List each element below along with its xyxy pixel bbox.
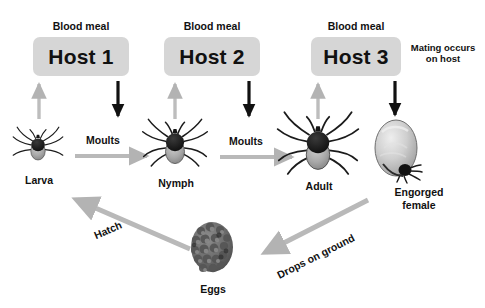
host-box-1-label: Host 1 — [48, 46, 113, 67]
stage-label-nymph: Nymph — [145, 177, 207, 190]
engorged-label-line-1: Engorged — [382, 186, 456, 199]
tick-life-cycle-diagram: Blood meal Host 1 Blood meal Host 2 Bloo… — [0, 0, 485, 308]
stage-label-engorged-female: Engorged female — [382, 186, 456, 211]
mating-note-line-2: on host — [404, 53, 482, 64]
moult-label-2: Moults — [229, 135, 263, 147]
engorged-label-line-2: female — [382, 199, 456, 212]
blood-meal-label-2: Blood meal — [164, 20, 260, 32]
tick-egg-mass-icon — [191, 222, 233, 272]
host-box-3-label: Host 3 — [323, 46, 388, 67]
tick-larva-icon — [13, 127, 63, 160]
blood-meal-label-1: Blood meal — [33, 20, 129, 32]
host-box-2-label: Host 2 — [179, 46, 244, 67]
host-box-3[interactable]: Host 3 — [311, 37, 401, 76]
stage-label-adult: Adult — [288, 180, 350, 193]
hatch-label: Hatch — [92, 219, 124, 241]
stage-label-larva: Larva — [8, 174, 70, 187]
moult-label-1: Moults — [86, 134, 120, 146]
mating-note: Mating occurs on host — [404, 42, 482, 64]
blood-meal-label-3: Blood meal — [308, 20, 404, 32]
drops-on-ground-label: Drops on ground — [275, 231, 356, 280]
engorged-female-tick-icon — [375, 120, 422, 183]
hatch-arrow — [77, 200, 190, 249]
tick-nymph-icon — [143, 119, 208, 166]
stage-label-eggs: Eggs — [182, 283, 244, 296]
host-box-2[interactable]: Host 2 — [164, 37, 260, 76]
tick-adult-icon — [278, 112, 359, 174]
mating-note-line-1: Mating occurs — [404, 42, 482, 53]
drops-on-ground-arrow — [266, 200, 368, 252]
host-box-1[interactable]: Host 1 — [33, 37, 129, 76]
